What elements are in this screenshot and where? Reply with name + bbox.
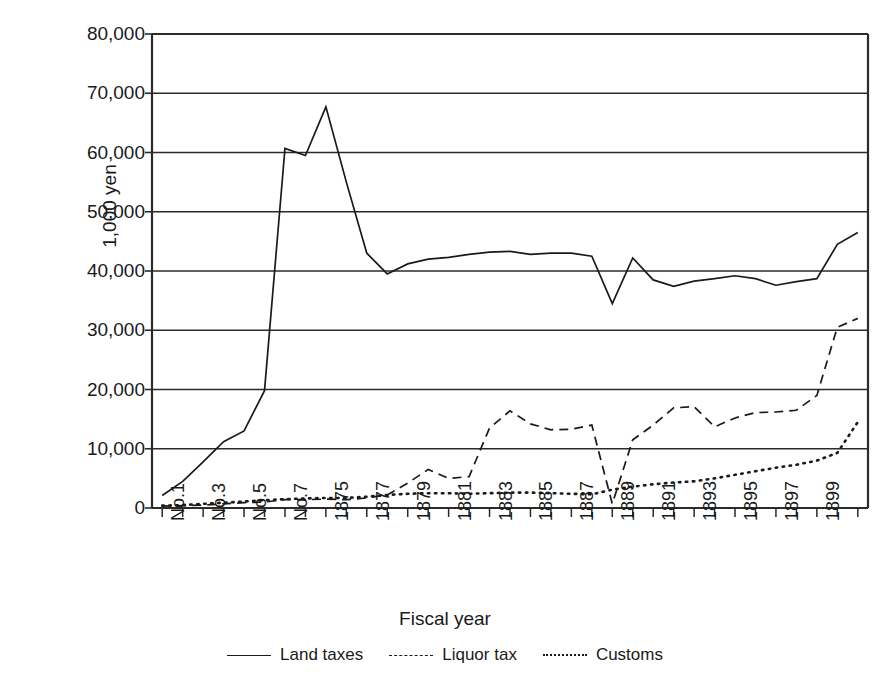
legend-label: Customs: [596, 645, 663, 665]
x-tick-label: 1899: [824, 481, 842, 521]
legend-item: Liquor tax: [389, 645, 517, 665]
x-tick-label: 1891: [660, 481, 678, 521]
x-tick-label: 1889: [619, 481, 637, 521]
y-tick-label-text: 50,000: [45, 202, 145, 221]
legend-label: Liquor tax: [442, 645, 517, 665]
gridlines: [152, 34, 868, 508]
x-tick-label: 1893: [701, 481, 719, 521]
y-tick-label-text: 30,000: [45, 320, 145, 339]
y-tick-label-text: 70,000: [45, 83, 145, 102]
legend-swatch-dotted-icon: [543, 654, 587, 656]
x-tick-label: No.1: [169, 483, 187, 521]
x-axis-title: Fiscal year: [0, 608, 890, 630]
y-tick-label-text: 60,000: [45, 143, 145, 162]
x-tick-label: No.3: [210, 483, 228, 521]
x-tick-label: 1895: [742, 481, 760, 521]
y-tick-label-text: 10,000: [45, 439, 145, 458]
series-line-liquor-tax: [162, 318, 858, 506]
x-tick-label: 1881: [456, 481, 474, 521]
y-tick-label-text: 80,000: [45, 24, 145, 43]
x-tick-label: 1879: [415, 481, 433, 521]
x-tick-label: 1877: [374, 481, 392, 521]
y-tick-label-text: 40,000: [45, 261, 145, 280]
x-tick-label: 1883: [497, 481, 515, 521]
legend-item: Land taxes: [227, 645, 363, 665]
x-tick-label: 1887: [578, 481, 596, 521]
y-tick-label-text: 0: [45, 498, 145, 517]
chart-legend: Land taxesLiquor taxCustoms: [0, 645, 890, 665]
x-tick-label: 1875: [333, 481, 351, 521]
series-line-land-taxes: [162, 107, 858, 496]
x-tick-label: No.5: [251, 483, 269, 521]
x-tick-label: No.7: [292, 483, 310, 521]
legend-swatch-dashed-icon: [389, 655, 433, 656]
x-tick-label: 1897: [783, 481, 801, 521]
chart-figure: 1,000 yen 010,00020,00030,00040,00050,00…: [0, 0, 890, 675]
axis-ticks: [145, 34, 858, 517]
data-series: [162, 107, 858, 506]
y-tick-label-text: 20,000: [45, 380, 145, 399]
legend-swatch-solid-icon: [227, 655, 271, 656]
legend-item: Customs: [543, 645, 663, 665]
x-tick-label: 1885: [537, 481, 555, 521]
legend-label: Land taxes: [280, 645, 363, 665]
